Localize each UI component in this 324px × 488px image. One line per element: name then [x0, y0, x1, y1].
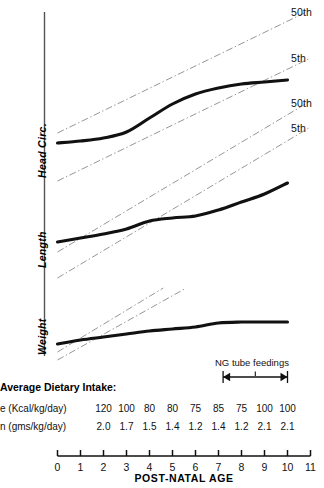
intake-cell-r0-c7: 100 — [256, 403, 273, 414]
intake-cell-r0-c6: 75 — [236, 403, 247, 414]
percentile-label-length-5th: 5th — [291, 122, 306, 134]
percentile-reference-lines — [58, 10, 311, 360]
intake-cell-r1-c6: 1.2 — [235, 421, 249, 432]
x-tick-label-9: 9 — [262, 461, 268, 473]
intake-cell-r0-c4: 75 — [190, 403, 201, 414]
intake-cell-r1-c7: 2.1 — [258, 421, 272, 432]
intake-cell-r0-c8: 100 — [279, 403, 296, 414]
percentile-label-head-5th: 5th — [291, 52, 306, 64]
reference-line-length-5th — [58, 127, 311, 278]
reference-line-weight-5th — [58, 288, 187, 360]
intake-cell-r1-c8: 2.1 — [281, 421, 295, 432]
x-tick-label-3: 3 — [124, 461, 130, 473]
patient-curve-weight — [58, 322, 288, 344]
intake-cell-r0-c1: 100 — [118, 403, 135, 414]
intake-cell-r0-c3: 80 — [167, 403, 178, 414]
percentile-label-head-50th: 50th — [291, 6, 312, 18]
intake-cell-r1-c4: 1.2 — [189, 421, 203, 432]
patient-curve-headcirc — [58, 80, 288, 143]
x-tick-label-11: 11 — [305, 461, 316, 473]
dietary-intake-title: Average Dietary Intake: — [0, 381, 116, 393]
patient-growth-curves — [58, 80, 288, 344]
reference-line-headcirc-50th — [58, 10, 311, 133]
growth-chart: Head Circ. Length Weight 50th 5th 50th 5… — [0, 0, 324, 488]
intake-row-label-calories: e (Kcal/kg/day) — [0, 403, 67, 414]
intake-cell-r1-c1: 1.7 — [120, 421, 134, 432]
patient-curve-length — [58, 183, 288, 242]
intake-cell-r1-c5: 1.4 — [212, 421, 226, 432]
y-axis-label-length: Length — [36, 231, 48, 268]
x-axis-title: POST-NATAL AGE — [134, 472, 233, 484]
x-tick-label-0: 0 — [55, 461, 61, 473]
y-axis-label-head-circ: Head Circ. — [36, 123, 48, 178]
intake-cell-r1-c0: 2.0 — [97, 421, 111, 432]
intake-cell-r0-c2: 80 — [144, 403, 155, 414]
x-tick-label-8: 8 — [239, 461, 245, 473]
y-axis-label-weight: Weight — [36, 318, 48, 355]
x-tick-label-2: 2 — [101, 461, 107, 473]
x-tick-label-10: 10 — [282, 461, 294, 473]
intake-row-label-protein: n (gms/kg/day) — [0, 421, 66, 432]
ng-tube-span-arrow — [223, 371, 287, 383]
intake-cell-r1-c2: 1.5 — [143, 421, 157, 432]
ng-tube-feedings-label: NG tube feedings — [215, 357, 289, 368]
x-tick-label-1: 1 — [78, 461, 84, 473]
reference-line-length-50th — [58, 101, 311, 252]
plot-layer — [0, 0, 324, 488]
x-axis-line-and-ticks — [58, 450, 311, 456]
intake-cell-r0-c0: 120 — [95, 403, 112, 414]
reference-line-headcirc-5th — [58, 58, 311, 181]
percentile-label-length-50th: 50th — [291, 97, 312, 109]
intake-cell-r0-c5: 85 — [213, 403, 224, 414]
intake-cell-r1-c3: 1.4 — [166, 421, 180, 432]
